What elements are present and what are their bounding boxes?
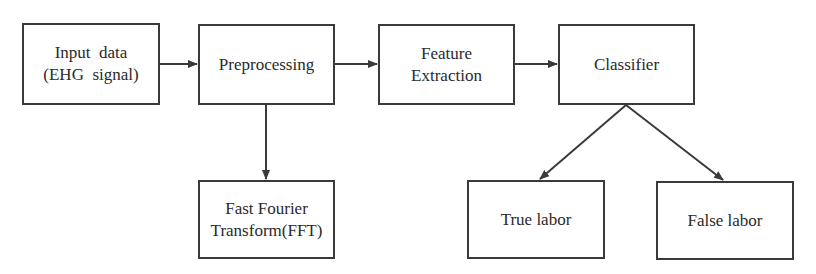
arrow-classifier-to-true-labor xyxy=(540,105,626,179)
node-classifier: Classifier xyxy=(558,24,695,105)
node-input-data: Input data (EHG signal) xyxy=(22,23,160,105)
node-feature-line2: Extraction xyxy=(411,65,482,87)
node-feature-line1: Feature xyxy=(411,43,482,65)
node-feature-extraction: Feature Extraction xyxy=(378,24,515,105)
node-input-line2: (EHG signal) xyxy=(43,64,138,86)
node-false-labor-label: False labor xyxy=(687,210,762,232)
node-false-labor: False labor xyxy=(656,181,794,260)
node-true-labor-label: True labor xyxy=(501,209,572,231)
node-preprocessing: Preprocessing xyxy=(198,24,335,105)
node-fft-line1: Fast Fourier xyxy=(211,198,323,220)
node-fft-line2: Transform(FFT) xyxy=(211,220,323,242)
arrow-classifier-to-false-labor xyxy=(626,105,723,180)
node-classifier-label: Classifier xyxy=(594,54,659,76)
flowchart-canvas: Input data (EHG signal) Preprocessing Fe… xyxy=(0,0,816,274)
node-fft: Fast Fourier Transform(FFT) xyxy=(198,180,335,259)
node-true-labor: True labor xyxy=(467,180,605,259)
node-preprocessing-label: Preprocessing xyxy=(219,54,314,76)
node-input-line1: Input data xyxy=(43,42,138,64)
